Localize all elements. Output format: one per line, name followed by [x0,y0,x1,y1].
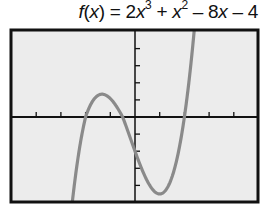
graph-plot [0,0,266,214]
